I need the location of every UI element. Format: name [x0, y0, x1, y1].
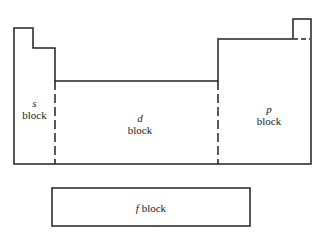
d-letter: d [137, 112, 143, 124]
s-word: block [22, 109, 46, 121]
f-letter: f [136, 202, 139, 214]
s-block-label: s block [14, 97, 55, 121]
p-letter: p [266, 103, 272, 115]
s-letter: s [32, 97, 36, 109]
d-word: block [128, 124, 152, 136]
f-block-label: f block [52, 202, 250, 214]
main-outline [14, 19, 311, 164]
d-block-label: d block [120, 112, 160, 136]
f-word: block [142, 202, 166, 214]
p-block-label: p block [249, 103, 289, 127]
p-word: block [257, 115, 281, 127]
